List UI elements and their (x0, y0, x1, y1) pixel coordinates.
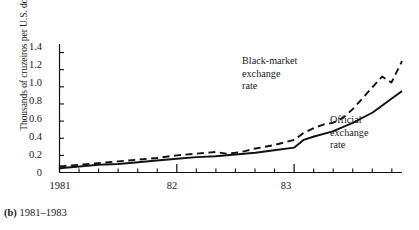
y-tick-label-1.0: 1.0 (16, 78, 42, 89)
x-tick-label-82: 82 (159, 181, 185, 192)
y-tick-label-1.4: 1.4 (16, 42, 42, 53)
annotation-official-rate: Official exchange rate (330, 114, 368, 152)
figure-panel: Thousands of cruzeiros per U.S. dollar 1… (0, 0, 419, 230)
y-tick-marks (60, 53, 65, 173)
y-tick-label-0.6: 0.6 (16, 114, 42, 125)
figure-caption-label: (b) (4, 207, 17, 218)
figure-caption-range: 1981–1983 (19, 207, 66, 218)
annotation-black-market-rate: Black-market exchange rate (242, 55, 297, 93)
figure-caption: (b) 1981–1983 (4, 207, 67, 219)
x-tick-label-1981: 1981 (42, 181, 78, 192)
y-tick-label-0.4: 0.4 (16, 132, 42, 143)
y-tick-label-0.2: 0.2 (16, 150, 42, 161)
y-tick-label-0.8: 0.8 (16, 96, 42, 107)
y-tick-label-1.2: 1.2 (16, 60, 42, 71)
axes-group (60, 44, 403, 173)
y-tick-label-0: 0 (16, 168, 42, 179)
x-tick-label-83: 83 (273, 181, 299, 192)
